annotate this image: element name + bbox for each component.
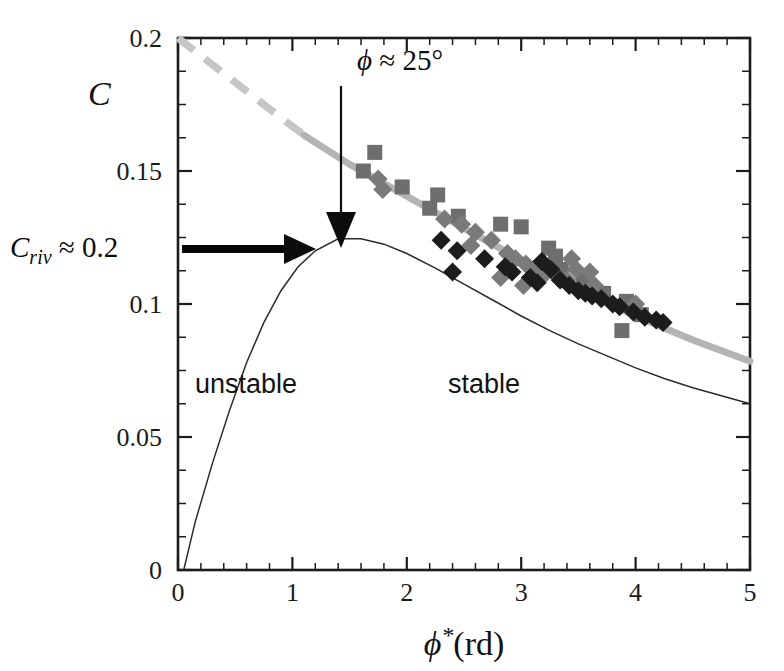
phi-symbol: ϕ bbox=[357, 44, 372, 76]
data-point-square bbox=[430, 187, 445, 202]
x-tick-label: 0 bbox=[172, 578, 185, 607]
data-point-square bbox=[422, 201, 437, 216]
data-point-square bbox=[395, 179, 410, 194]
data-point-diamond bbox=[432, 231, 451, 250]
stable-region-label: stable bbox=[448, 369, 520, 399]
x-axis-title: ϕ*(rd) bbox=[424, 622, 505, 663]
x-tick-label: 4 bbox=[629, 578, 642, 607]
data-point-diamond bbox=[475, 249, 494, 268]
c-riv-label: Criv ≈ 0.2 bbox=[10, 231, 118, 268]
x-tick-label: 1 bbox=[286, 578, 299, 607]
plot-frame bbox=[178, 38, 750, 570]
figure-container: ϕ ≈ 25° Criv ≈ 0.2 unstable stable 01234… bbox=[0, 0, 784, 671]
y-tick-label: 0.15 bbox=[117, 157, 163, 186]
data-points-layer bbox=[356, 145, 673, 338]
y-tick-label: 0.1 bbox=[130, 290, 163, 319]
curves-layer bbox=[178, 38, 750, 570]
x-tick-label: 5 bbox=[744, 578, 757, 607]
y-tick-label: 0.2 bbox=[130, 24, 163, 53]
data-point-square bbox=[367, 145, 382, 160]
data-point-diamond bbox=[443, 263, 462, 282]
stability-diagram-chart: ϕ ≈ 25° Criv ≈ 0.2 unstable stable 01234… bbox=[0, 0, 784, 671]
data-point-square bbox=[493, 217, 508, 232]
axis-ticks-group bbox=[178, 38, 750, 570]
fit-line-dashed-extrapolation bbox=[178, 38, 310, 139]
phi-critical-label: ϕ ≈ 25° bbox=[357, 44, 443, 76]
x-tick-label: 2 bbox=[400, 578, 413, 607]
x-tick-label: 3 bbox=[515, 578, 528, 607]
c-riv-arrow-head bbox=[284, 234, 316, 264]
data-point-square bbox=[614, 323, 629, 338]
theoretical-stability-curve bbox=[184, 239, 750, 570]
y-tick-label: 0 bbox=[149, 556, 162, 585]
data-point-square bbox=[514, 219, 529, 234]
y-tick-label: 0.05 bbox=[117, 423, 163, 452]
unstable-region-label: unstable bbox=[195, 369, 297, 399]
data-point-square bbox=[356, 164, 371, 179]
y-axis-title: C bbox=[88, 75, 111, 112]
